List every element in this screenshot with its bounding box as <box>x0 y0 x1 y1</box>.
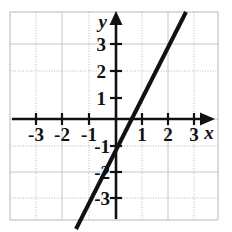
y-axis-name-label: y <box>97 11 108 32</box>
y-tick-label-1: 1 <box>97 88 107 109</box>
x-tick-label-neg2: -2 <box>54 124 70 145</box>
x-tick-label-neg3: -3 <box>28 124 44 145</box>
x-tick-label-2: 2 <box>163 124 173 145</box>
x-tick-label-3: 3 <box>189 124 199 145</box>
y-tick-label-3: 3 <box>97 34 107 55</box>
y-tick-label-2: 2 <box>97 61 107 82</box>
x-axis-name-label: x <box>203 122 214 143</box>
coordinate-plane: -3 -2 -1 1 2 3 3 2 1 -1 -2 -3 y x <box>0 0 232 232</box>
x-tick-label-1: 1 <box>137 124 147 145</box>
y-tick-label-neg3: -3 <box>94 188 110 209</box>
graph-figure: -3 -2 -1 1 2 3 3 2 1 -1 -2 -3 y x <box>0 0 232 232</box>
y-tick-label-neg2: -2 <box>94 162 110 183</box>
y-tick-label-neg1: -1 <box>94 136 110 157</box>
